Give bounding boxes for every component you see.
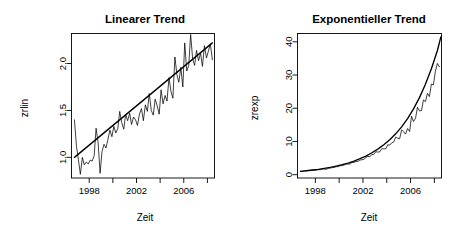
y-tick-label: 2.0 [57,57,68,70]
x-tick-label: 2002 [126,185,147,196]
figure-container: Linearer Trend zrlin Zeit 1.01.52.0 1998… [0,0,461,241]
y-tick-label: 1.5 [57,104,68,117]
x-tick-label: 2002 [352,185,373,196]
y-tick-label: 40 [283,37,294,48]
x-tick-label: 1998 [305,185,326,196]
plot-area-linear: 1.01.52.0 199820022006 [57,34,215,197]
plot-area-exponential: 010203040 199820022006 [283,34,442,197]
x-tick-label: 2006 [173,185,194,196]
panel-title-exponential: Exponentieller Trend [312,13,426,25]
panel-title-linear: Linearer Trend [105,13,185,25]
trend-line-linear [74,43,212,157]
x-tick-label: 1998 [79,185,100,196]
y-tick-label: 1.0 [57,151,68,164]
observed-series-exponential [300,63,439,171]
plot-box-linear [72,34,215,179]
observed-series-linear [74,34,212,174]
y-axis-label-exponential: zrexp [249,95,260,120]
chart-panel-linear: Linearer Trend zrlin Zeit 1.01.52.0 1998… [0,0,230,241]
x-axis-label-exponential: Zeit [361,212,378,223]
y-tick-label: 30 [283,70,294,81]
x-tick-label: 2006 [400,185,421,196]
linear-trend-plot: Linearer Trend zrlin Zeit 1.01.52.0 1998… [0,0,230,241]
trend-line-exponential [300,37,440,172]
x-axis-label-linear: Zeit [137,212,154,223]
y-tick-label: 20 [283,103,294,114]
exponential-trend-plot: Exponentieller Trend zrexp Zeit 01020304… [231,0,461,241]
y-axis-label-linear: zrlin [19,99,30,117]
y-tick-label: 10 [283,136,294,147]
x-axis-linear: 199820022006 [79,178,208,196]
y-axis-exponential: 010203040 [283,37,298,178]
chart-panel-exponential: Exponentieller Trend zrexp Zeit 01020304… [231,0,461,241]
y-tick-label: 0 [283,172,294,177]
y-axis-linear: 1.01.52.0 [57,57,72,164]
x-axis-exponential: 199820022006 [305,178,435,196]
